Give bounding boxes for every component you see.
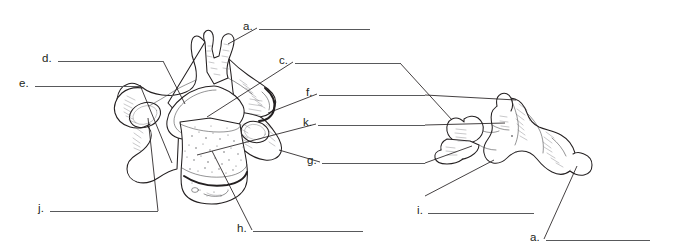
answer-line-j[interactable] — [50, 211, 158, 212]
label-letter-k: k. — [303, 117, 312, 129]
worksheet-page: a. d. c. e. f. k. g. j. i. h. a. — [0, 0, 673, 251]
leader-lines — [140, 28, 577, 239]
label-letter-a-top: a. — [243, 21, 253, 33]
label-letter-i: i. — [417, 205, 423, 217]
leader-f-right — [425, 95, 516, 100]
label-letter-e: e. — [19, 78, 29, 90]
leader-e — [140, 85, 172, 163]
label-letter-f: f. — [306, 87, 313, 99]
leader-k-right — [425, 123, 505, 125]
answer-line-i[interactable] — [428, 213, 534, 214]
answer-line-d[interactable] — [58, 61, 163, 62]
leader-c — [207, 62, 293, 117]
leader-h — [212, 151, 252, 230]
answer-line-e[interactable] — [35, 86, 140, 87]
answer-line-c[interactable] — [295, 63, 400, 64]
hatching-lateral-figure — [446, 104, 563, 167]
hatching-spinous-process — [207, 44, 229, 75]
answer-line-f[interactable] — [319, 95, 425, 96]
leader-j — [148, 118, 158, 211]
leader-a-bottom — [544, 166, 577, 239]
label-letter-h: h. — [237, 223, 247, 235]
leader-k — [197, 124, 316, 155]
label-letter-a-bottom: a. — [530, 232, 540, 244]
figure-cervical-vertebra-superior — [114, 30, 281, 204]
answer-line-a-bottom[interactable] — [546, 240, 650, 241]
answer-line-k[interactable] — [318, 125, 425, 126]
answer-line-a-top[interactable] — [259, 29, 370, 30]
label-letter-g: g. — [307, 155, 317, 167]
answer-line-g[interactable] — [322, 163, 425, 164]
leader-g-right — [425, 146, 472, 163]
hatching-right-process — [240, 80, 275, 148]
cancellous-bone-texture — [184, 126, 243, 197]
hatching-left-process — [124, 96, 143, 151]
label-letter-d: d. — [42, 53, 52, 65]
leader-c-right — [400, 63, 452, 120]
label-letter-c: c. — [279, 55, 288, 67]
figure-cervical-vertebra-lateral — [435, 93, 592, 175]
leader-i — [425, 160, 494, 196]
leader-d — [163, 61, 185, 104]
label-letter-j: j. — [38, 203, 44, 215]
answer-line-h[interactable] — [253, 231, 363, 232]
